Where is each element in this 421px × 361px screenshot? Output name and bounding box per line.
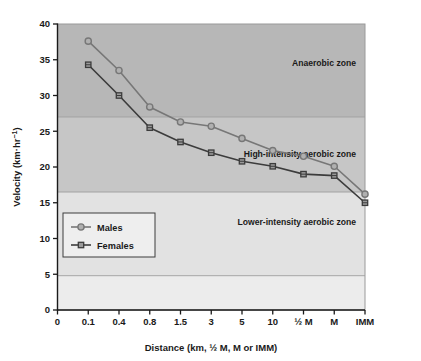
- y-tick-label-4: 20: [39, 161, 50, 172]
- x-tick-label-1: 0.1: [82, 316, 96, 327]
- data-point-males-1: [116, 67, 122, 73]
- y-tick-label-5: 25: [39, 126, 50, 137]
- data-point-males-6: [270, 147, 276, 153]
- data-point-males-2: [147, 104, 153, 110]
- y-axis-title: Velocity (km·hr−1): [11, 127, 23, 206]
- x-tick-label-0: 0: [55, 316, 60, 327]
- page-margin-text-fragment: [410, 10, 421, 21]
- x-tick-label-9: M: [330, 316, 338, 327]
- data-point-males-5: [239, 135, 245, 141]
- y-tick-label-6: 30: [39, 90, 50, 101]
- y-tick-label-1: 5: [45, 269, 51, 280]
- x-axis-title: Distance (km, ½ M, M or IMM): [145, 342, 278, 353]
- data-point-females-6: [270, 164, 275, 169]
- zone-label-2: Lower-intensity aerobic zone: [238, 217, 357, 227]
- data-point-males-7: [300, 153, 306, 159]
- data-point-males-0: [85, 38, 91, 44]
- zone-band-0: [58, 24, 366, 117]
- data-point-females-9: [362, 200, 367, 205]
- y-tick-label-7: 35: [39, 54, 50, 65]
- y-tick-label-8: 40: [39, 18, 50, 29]
- x-axis-ticks: 00.10.40.81.53510½ MMIMM: [55, 310, 374, 327]
- chart-legend: MalesFemales: [63, 213, 155, 257]
- data-point-females-7: [301, 171, 306, 176]
- zone-band-3: [58, 276, 366, 310]
- figure-container: Anaerobic zoneHigh-intensity aerobic zon…: [0, 0, 421, 361]
- zone-label-0: Anaerobic zone: [292, 58, 356, 68]
- legend-marker-females: [78, 242, 83, 247]
- data-point-males-4: [208, 123, 214, 129]
- data-point-males-9: [362, 191, 368, 197]
- legend-label-females: Females: [97, 241, 134, 251]
- data-point-females-8: [332, 173, 337, 178]
- x-tick-label-3: 0.8: [143, 316, 156, 327]
- data-point-females-3: [178, 139, 183, 144]
- y-axis-title-text: Velocity (km·hr−1): [11, 127, 23, 206]
- legend-label-males: Males: [97, 223, 123, 233]
- x-tick-label-5: 3: [209, 316, 214, 327]
- x-tick-label-2: 0.4: [112, 316, 126, 327]
- x-tick-label-10: IMM: [356, 316, 375, 327]
- legend-marker-males: [78, 224, 84, 230]
- y-tick-label-0: 0: [45, 304, 50, 315]
- x-tick-label-8: ½ M: [294, 316, 313, 327]
- data-point-females-1: [116, 93, 121, 98]
- velocity-vs-distance-chart: Anaerobic zoneHigh-intensity aerobic zon…: [0, 0, 421, 361]
- data-point-males-3: [177, 119, 183, 125]
- data-point-females-2: [147, 125, 152, 130]
- x-tick-label-4: 1.5: [174, 316, 188, 327]
- x-tick-label-6: 5: [239, 316, 245, 327]
- y-tick-label-2: 10: [39, 233, 50, 244]
- data-point-females-0: [86, 62, 91, 67]
- data-point-females-5: [239, 159, 244, 164]
- data-point-females-4: [209, 150, 214, 155]
- x-tick-label-7: 10: [267, 316, 278, 327]
- data-point-males-8: [331, 163, 337, 169]
- y-axis-ticks: 0510152025303540: [39, 18, 57, 315]
- y-tick-label-3: 15: [39, 197, 50, 208]
